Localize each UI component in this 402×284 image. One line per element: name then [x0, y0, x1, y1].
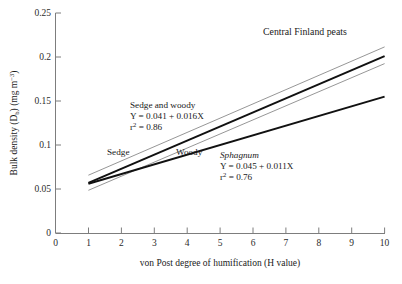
y-axis-title-mid: ) (mg m [9, 80, 20, 111]
chart-figure: 0 0.05 0.1 0.15 0.2 0.25 0 1 2 3 4 5 6 7… [0, 0, 402, 284]
annotation-sedge-and-woody-equation: Y = 0.041 + 0.016X [130, 111, 204, 121]
x-tick-label: 4 [185, 238, 190, 248]
x-tick-label: 1 [86, 238, 91, 248]
svg-text:Bulk density (Db) (mg m−3): Bulk density (Db) (mg m−3) [8, 71, 21, 176]
y-axis-title-lead: Bulk density (D [9, 115, 20, 176]
x-tick-label: 8 [316, 238, 321, 248]
line-label-woody: Woody [176, 147, 203, 157]
y-tick-label: 0.15 [34, 96, 51, 106]
x-tick-label: 7 [284, 238, 289, 248]
line-label-sedge: Sedge [107, 147, 129, 157]
annotation-sphagnum-title: Sphagnum [220, 150, 259, 160]
y-tick-label: 0.05 [34, 184, 51, 194]
y-tick-label: 0.1 [39, 140, 51, 150]
x-tick-label: 9 [349, 238, 354, 248]
x-axis-title: von Post degree of humification (H value… [140, 258, 300, 269]
x-tick-label: 10 [380, 238, 390, 248]
x-tick-label: 5 [218, 238, 223, 248]
x-tick-label: 0 [53, 238, 58, 248]
r2-tail: = 0.86 [136, 122, 162, 132]
annotation-sphagnum-equation: Y = 0.045 + 0.011X [220, 161, 294, 171]
r2-tail: = 0.76 [226, 172, 252, 182]
y-tick-label: 0.2 [39, 52, 51, 62]
y-axis-title-tail: ) [9, 71, 20, 74]
y-tick-label: 0 [46, 228, 51, 238]
y-tick-label: 0.25 [34, 8, 51, 18]
y-axis-title: Bulk density (Db) (mg m−3) [8, 71, 21, 176]
x-tick-label: 2 [119, 238, 124, 248]
chart-canvas: 0 0.05 0.1 0.15 0.2 0.25 0 1 2 3 4 5 6 7… [0, 0, 402, 284]
x-tick-label: 6 [251, 238, 256, 248]
chart-title: Central Finland peats [263, 26, 347, 37]
x-tick-label: 3 [152, 238, 157, 248]
annotation-sedge-and-woody-title: Sedge and woody [130, 100, 196, 110]
